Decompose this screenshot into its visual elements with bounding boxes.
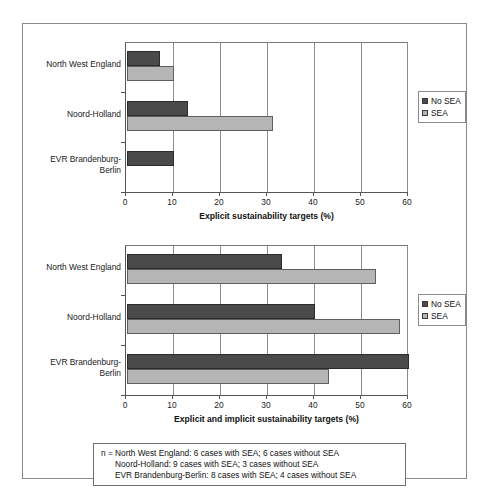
x-ticklabel-0: 0: [110, 197, 140, 207]
legend-label-no-sea: No SEA: [431, 299, 461, 309]
x-ticklabel-50: 50: [345, 400, 375, 410]
x-tick-30: [266, 192, 267, 196]
figure-frame: North West England Noord-Holland EVR Bra…: [22, 23, 467, 479]
category-label-evr-brandenburg-berlin: EVR Brandenburg- Berlin: [25, 154, 121, 175]
footnote-line-evr-brandenburg-berlin: EVR Brandenburg-Berlin: 8 cases with SEA…: [101, 470, 399, 481]
legend-item-no-sea: No SEA: [422, 298, 461, 310]
x-tick-60: [407, 192, 408, 196]
x-ticklabel-60: 60: [392, 197, 422, 207]
legend-item-sea: SEA: [422, 310, 461, 322]
x-tick-20: [219, 192, 220, 196]
x-tick-40: [313, 395, 314, 399]
x-axis-title-bottom: Explicit and implicit sustainability tar…: [125, 414, 408, 424]
legend-swatch-no-sea-icon: [422, 98, 428, 104]
plot-area-bottom: [125, 245, 408, 395]
legend-top: No SEA SEA: [418, 91, 466, 123]
legend-bottom: No SEA SEA: [418, 294, 466, 326]
legend-swatch-sea-icon: [422, 313, 428, 319]
bar-sea-north-west-england: [127, 66, 174, 81]
gridline-40: [314, 43, 315, 192]
x-tick-20: [219, 395, 220, 399]
bar-nosea-north-west-england: [127, 254, 282, 269]
x-ticklabel-40: 40: [298, 197, 328, 207]
category-label-noord-holland: Noord-Holland: [25, 109, 121, 120]
x-axis-tick-labels-top: 0 10 20 30 40 50 60: [125, 197, 408, 209]
footnote-box: n = North West England: 6 cases with SEA…: [93, 443, 406, 486]
x-axis-tick-labels-bottom: 0 10 20 30 40 50 60: [125, 400, 408, 412]
legend-item-no-sea: No SEA: [422, 95, 461, 107]
legend-swatch-sea-icon: [422, 110, 428, 116]
x-tick-0: [125, 192, 126, 196]
x-tick-10: [172, 395, 173, 399]
x-tick-60: [407, 395, 408, 399]
legend-label-sea: SEA: [431, 311, 448, 321]
bar-sea-evr-brandenburg-berlin: [127, 369, 329, 384]
x-ticklabel-60: 60: [392, 400, 422, 410]
x-axis-bottom: [125, 395, 408, 396]
x-axis-title-top: Explicit sustainability targets (%): [125, 211, 408, 221]
bar-sea-noord-holland: [127, 116, 273, 131]
x-tick-10: [172, 192, 173, 196]
bar-sea-north-west-england: [127, 269, 376, 284]
plot-area-top: [125, 42, 408, 192]
footnote-line-north-west-england: n = North West England: 6 cases with SEA…: [101, 448, 399, 459]
x-ticklabel-10: 10: [157, 197, 187, 207]
x-ticklabel-0: 0: [110, 400, 140, 410]
category-axis-labels-top: North West England Noord-Holland EVR Bra…: [25, 37, 121, 192]
x-ticklabel-40: 40: [298, 400, 328, 410]
bar-nosea-noord-holland: [127, 304, 315, 319]
category-label-evr-brandenburg-berlin: EVR Brandenburg- Berlin: [25, 357, 121, 378]
x-ticklabel-30: 30: [251, 400, 281, 410]
x-ticklabel-20: 20: [204, 400, 234, 410]
x-ticklabel-30: 30: [251, 197, 281, 207]
category-label-north-west-england: North West England: [25, 59, 121, 70]
category-label-north-west-england: North West England: [25, 262, 121, 273]
chart-explicit-sustainability-targets: North West England Noord-Holland EVR Bra…: [23, 29, 468, 234]
x-ticklabel-20: 20: [204, 197, 234, 207]
x-tick-50: [360, 192, 361, 196]
x-tick-0: [125, 395, 126, 399]
x-axis-top: [125, 192, 408, 193]
legend-label-no-sea: No SEA: [431, 96, 461, 106]
gridline-60: [407, 246, 408, 395]
x-tick-40: [313, 192, 314, 196]
chart-explicit-and-implicit-sustainability-targets: North West England Noord-Holland EVR Bra…: [23, 232, 468, 437]
x-ticklabel-50: 50: [345, 197, 375, 207]
footnote-line-noord-holland: Noord-Holland: 9 cases with SEA; 3 cases…: [101, 459, 399, 470]
category-label-noord-holland: Noord-Holland: [25, 312, 121, 323]
bar-nosea-evr-brandenburg-berlin: [127, 354, 409, 369]
x-tick-30: [266, 395, 267, 399]
bar-nosea-north-west-england: [127, 51, 160, 66]
x-ticklabel-10: 10: [157, 400, 187, 410]
legend-label-sea: SEA: [431, 108, 448, 118]
bar-sea-noord-holland: [127, 319, 400, 334]
legend-swatch-no-sea-icon: [422, 301, 428, 307]
bar-nosea-noord-holland: [127, 101, 188, 116]
gridline-50: [361, 43, 362, 192]
x-tick-50: [360, 395, 361, 399]
category-axis-labels-bottom: North West England Noord-Holland EVR Bra…: [25, 240, 121, 395]
bar-nosea-evr-brandenburg-berlin: [127, 151, 174, 166]
legend-item-sea: SEA: [422, 107, 461, 119]
gridline-60: [407, 43, 408, 192]
